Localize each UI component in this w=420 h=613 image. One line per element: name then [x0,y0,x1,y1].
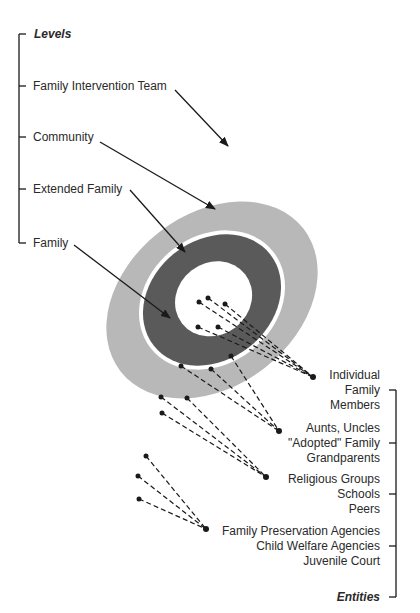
entity-line: "Adopted" Family [288,436,380,450]
entity-line: Grandparents [288,451,380,465]
entities-bracket [389,390,396,597]
entity-line: Aunts, Uncles [288,421,380,435]
entity-group-intervention-agencies: Family Preservation Agencies Child Welfa… [222,524,380,568]
level-label-family: Family [33,236,68,250]
entities-heading: Entities [337,590,380,604]
arrow-community [100,142,215,209]
entity-line: Schools [288,487,380,501]
levels-bracket [19,34,26,243]
entity-group-extended-family: Aunts, Uncles "Adopted" Family Grandpare… [288,421,380,465]
entity-line: Juvenile Court [222,554,380,568]
level-label-community: Community [33,130,94,144]
entity-group-community: Religious Groups Schools Peers [288,472,380,516]
entity-line: Individual [329,368,380,382]
entity-line: Religious Groups [288,472,380,486]
level-label-family-intervention-team: Family Intervention Team [33,79,167,93]
nested-ellipses [68,161,357,439]
entity-line: Family Preservation Agencies [222,524,380,538]
entity-line: Members [329,398,380,412]
level-label-extended-family: Extended Family [33,182,122,196]
levels-heading: Levels [34,27,71,41]
arrow-family-intervention-team [175,90,228,146]
entity-line: Child Welfare Agencies [222,539,380,553]
entity-line: Peers [288,502,380,516]
entity-group-individual-family-members: Individual Family Members [329,368,380,412]
entity-line: Family [329,383,380,397]
